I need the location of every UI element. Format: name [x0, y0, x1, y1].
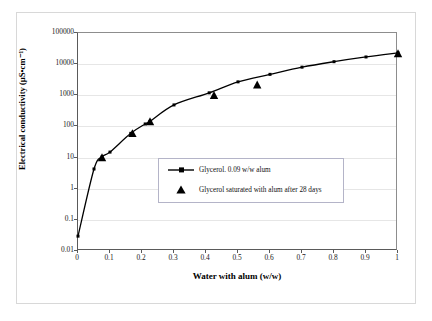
legend-triangle-symbol-icon	[167, 183, 195, 197]
x-tickmark	[205, 250, 206, 253]
data-point-marker	[301, 66, 304, 69]
legend-label-glycerol-saturated: Glycerol saturated with alum after 28 da…	[199, 186, 322, 194]
y-tickmark	[74, 157, 77, 158]
x-tickmark	[77, 250, 78, 253]
y-tickmark	[74, 63, 77, 64]
y-tick-label: 0.1	[65, 215, 74, 223]
data-point-marker	[237, 80, 240, 83]
data-point-marker	[173, 103, 176, 106]
x-tickmark	[269, 250, 270, 253]
y-tickmark	[74, 219, 77, 220]
y-tick-label: 10000	[56, 59, 74, 67]
x-tick-label: 0.3	[168, 253, 177, 262]
legend-label-glycerol-009: Glycerol. 0.09 w/w alum	[199, 166, 271, 174]
x-tickmark	[173, 250, 174, 253]
x-tickmark	[237, 250, 238, 253]
y-tick-label: 100	[63, 121, 74, 129]
y-tick-label: 10	[67, 153, 74, 161]
x-axis-title: Water with alum (w/w)	[77, 271, 397, 281]
data-point-triangle-marker	[253, 80, 261, 88]
x-tickmark	[141, 250, 142, 253]
chart-figure: 0.010.1110100100010000100000 00.10.20.30…	[0, 0, 432, 321]
x-tickmark	[397, 250, 398, 253]
plot-area	[77, 32, 397, 250]
y-axis-ticks: 0.010.1110100100010000100000	[34, 32, 74, 250]
series-glycerol-saturated-markers	[98, 49, 402, 161]
chart-legend: Glycerol. 0.09 w/w alum Glycerol saturat…	[158, 158, 344, 203]
y-axis-title: Electrical conductivity (µS•cm⁻¹)	[17, 9, 27, 209]
legend-line-symbol-icon	[167, 163, 195, 177]
x-axis-ticks: 00.10.20.30.40.50.60.70.80.91	[77, 253, 397, 267]
y-tick-label: 100000	[52, 28, 74, 36]
y-tick-label: 1000	[59, 90, 74, 98]
data-point-marker	[365, 55, 368, 58]
y-tick-label: 0.01	[61, 246, 74, 254]
data-point-marker	[333, 60, 336, 63]
data-point-marker	[208, 91, 211, 94]
y-tickmark	[74, 94, 77, 95]
x-tick-label: 0.2	[136, 253, 145, 262]
x-tick-label: 0.9	[360, 253, 369, 262]
x-tick-label: 0.6	[264, 253, 273, 262]
x-tickmark	[301, 250, 302, 253]
y-tickmark	[74, 188, 77, 189]
x-tickmark	[333, 250, 334, 253]
series-glycerol-009-markers	[77, 51, 400, 237]
x-tick-label: 0	[75, 253, 79, 262]
data-point-triangle-marker	[146, 117, 154, 125]
data-point-marker	[93, 167, 96, 170]
data-point-marker	[109, 151, 112, 154]
y-tickmark	[74, 125, 77, 126]
x-tickmark	[365, 250, 366, 253]
x-tick-label: 0.4	[200, 253, 209, 262]
x-tick-label: 0.5	[232, 253, 241, 262]
x-tick-label: 1	[395, 253, 399, 262]
data-point-marker	[269, 73, 272, 76]
data-point-marker	[77, 235, 80, 238]
legend-entry-triangle: Glycerol saturated with alum after 28 da…	[159, 183, 343, 203]
y-tickmark	[74, 32, 77, 33]
x-tick-label: 0.7	[296, 253, 305, 262]
x-tick-label: 0.8	[328, 253, 337, 262]
legend-entry-line: Glycerol. 0.09 w/w alum	[159, 163, 343, 183]
x-tickmark	[109, 250, 110, 253]
plot-svg	[78, 33, 398, 251]
x-tick-label: 0.1	[104, 253, 113, 262]
